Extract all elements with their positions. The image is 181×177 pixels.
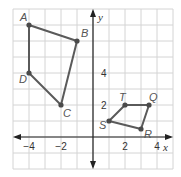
vertex-d [26,70,31,75]
x-tick-label: 2 [122,141,128,152]
x-axis-label: x [162,141,168,153]
y-axis-arrow-up-icon [90,9,96,17]
vertex-b [74,38,79,43]
vertex-t [122,102,127,107]
x-axis-arrow-left-icon [13,134,21,140]
vertex-label-a: A [19,11,27,23]
vertex-a [26,22,31,27]
y-axis-arrow-down-icon [90,161,96,169]
x-tick-label: 4 [154,141,160,152]
vertex-label-t: T [119,91,127,103]
y-tick-label: 2 [101,100,107,111]
y-tick-label: 4 [101,68,107,79]
vertex-label-d: D [19,73,27,85]
vertex-label-c: C [63,107,71,119]
vertex-label-r: R [144,128,152,140]
x-tick-label: −2 [55,141,67,152]
vertex-label-q: Q [149,91,158,103]
vertex-label-b: B [81,27,88,39]
vertex-label-s: S [99,119,107,131]
coordinate-plane: xy−4−22424ABCDSTQR [0,0,181,177]
figure-stqr [109,105,149,129]
figure-abcd [29,25,77,105]
vertex-s [106,118,111,123]
x-tick-label: −4 [23,141,35,152]
x-axis-arrow-right-icon [165,134,173,140]
y-axis-label: y [97,11,103,23]
vertex-r [138,126,143,131]
vertex-q [146,102,151,107]
